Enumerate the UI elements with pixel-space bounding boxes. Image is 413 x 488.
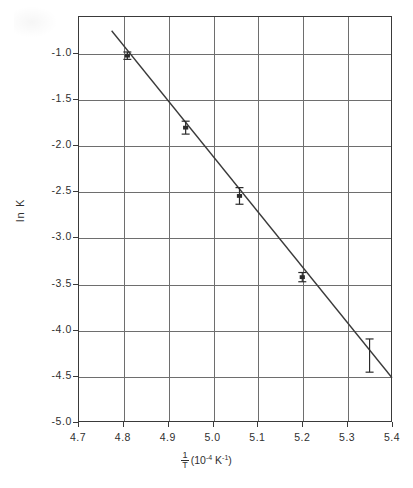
y-axis-tick-mark (73, 53, 78, 54)
y-axis-tick-mark (73, 376, 78, 377)
y-axis-tick-mark (73, 330, 78, 331)
y-axis-tick-mark (73, 191, 78, 192)
gridline-horizontal (79, 238, 391, 239)
y-axis-tick-label: -1.0 (30, 46, 72, 58)
x-units-kelvin: K (212, 454, 222, 466)
gridline-vertical (303, 17, 304, 421)
y-axis-tick-label: -4.0 (30, 323, 72, 335)
one-over-t-fraction: 1 T (181, 451, 189, 470)
x-axis-tick-label: 4.9 (160, 431, 176, 443)
x-axis-tick-label: 5.4 (384, 431, 400, 443)
gridline-horizontal (79, 377, 391, 378)
x-axis-tick-mark (302, 422, 303, 427)
gridline-horizontal (79, 192, 391, 193)
x-axis-tick-mark (392, 422, 393, 427)
arrhenius-plot-figure: ln K 1 T (10-4 K-1) -1.0-1.5-2.0-2.5-3.0… (0, 0, 413, 488)
y-axis-tick-label: -2.5 (30, 184, 72, 196)
gridline-horizontal (79, 331, 391, 332)
gridline-horizontal (79, 285, 391, 286)
y-axis-tick-label: -2.0 (30, 138, 72, 150)
y-axis-tick-label: -4.5 (30, 369, 72, 381)
x-axis-tick-mark (257, 422, 258, 427)
y-axis-tick-mark (73, 99, 78, 100)
fraction-numerator: 1 (181, 451, 189, 460)
x-axis-tick-mark (123, 422, 124, 427)
plot-area (78, 16, 392, 422)
x-axis-tick-label: 5.1 (249, 431, 265, 443)
gridline-horizontal (79, 146, 391, 147)
y-axis-tick-label: -3.0 (30, 230, 72, 242)
gridline-vertical (124, 17, 125, 421)
x-units-open: (10 (191, 454, 206, 466)
x-axis-tick-label: 5.0 (205, 431, 221, 443)
gridline-vertical (169, 17, 170, 421)
y-axis-title: ln K (14, 199, 26, 222)
x-units-close: ) (228, 454, 232, 466)
x-axis-tick-mark (168, 422, 169, 427)
x-axis-tick-mark (213, 422, 214, 427)
gridline-vertical (348, 17, 349, 421)
y-axis-tick-label: -3.5 (30, 277, 72, 289)
gridline-vertical (214, 17, 215, 421)
gridline-horizontal (79, 54, 391, 55)
y-axis-tick-label: -1.5 (30, 92, 72, 104)
y-axis-tick-mark (73, 237, 78, 238)
gridline-vertical (258, 17, 259, 421)
x-axis-tick-label: 5.2 (294, 431, 310, 443)
fraction-denominator: T (181, 460, 189, 470)
x-axis-title: 1 T (10-4 K-1) (0, 452, 413, 471)
x-axis-tick-mark (78, 422, 79, 427)
y-axis-tick-mark (73, 145, 78, 146)
gridline-horizontal (79, 100, 391, 101)
x-axis-tick-label: 5.3 (339, 431, 355, 443)
scan-artifact-smudge (14, 6, 58, 38)
x-axis-tick-label: 4.8 (115, 431, 131, 443)
y-axis-tick-mark (73, 284, 78, 285)
x-axis-tick-mark (347, 422, 348, 427)
y-axis-tick-label: -5.0 (30, 415, 72, 427)
x-axis-tick-label: 4.7 (70, 431, 86, 443)
